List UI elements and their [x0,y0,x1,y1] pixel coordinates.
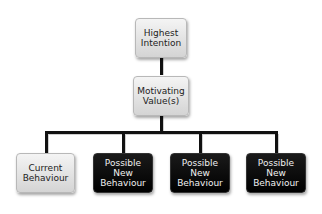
connector-highlight [278,134,279,153]
node-current-behaviour: Current Behaviour [16,153,75,193]
connector-highlight [163,115,164,131]
node-possible-new-behaviour-1: Possible New Behaviour [93,153,153,193]
node-label-line: Value(s) [137,96,185,106]
node-label-line: Possible [100,158,146,168]
node-label-line: Behaviour [177,178,223,188]
node-label-line: Highest [141,28,181,38]
node-label-line: Behaviour [100,178,146,188]
connector-highlight [202,134,203,153]
connector-highlight [48,134,49,153]
node-label-line: New [100,168,146,178]
node-motivating-values: Motivating Value(s) [133,76,189,116]
node-label-line: New [177,168,223,178]
node-label-line: Current [23,163,69,173]
node-highest-intention: Highest Intention [135,18,187,58]
node-label-line: Possible [253,158,299,168]
connector-highlight [125,134,126,153]
node-label-line: Behaviour [23,173,69,183]
node-label-line: New [253,168,299,178]
node-possible-new-behaviour-2: Possible New Behaviour [170,153,230,193]
node-label-line: Intention [141,38,181,48]
node-label-line: Possible [177,158,223,168]
connector-highlight [163,57,164,75]
connector-highlight [48,134,278,135]
node-label-line: Behaviour [253,178,299,188]
node-label-line: Motivating [137,86,185,96]
node-possible-new-behaviour-3: Possible New Behaviour [246,153,306,193]
